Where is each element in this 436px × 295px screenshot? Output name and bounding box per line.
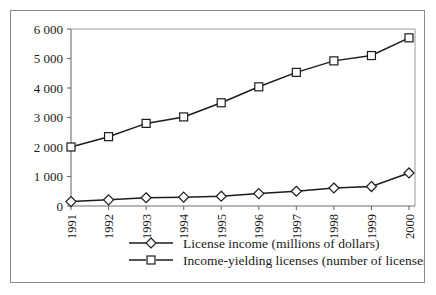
series-line-2 (71, 38, 409, 147)
data-point-s2-1992 (105, 133, 113, 141)
data-point-s1-1994 (179, 192, 189, 202)
data-point-s2-1997 (292, 68, 300, 76)
data-point-s1-1996 (254, 189, 264, 199)
x-tick-label: 1991 (65, 214, 79, 239)
data-point-s2-1991 (67, 143, 75, 151)
square-marker-icon (147, 256, 155, 264)
y-tick-label: 1 000 (34, 169, 63, 184)
data-point-s2-1996 (255, 83, 263, 91)
data-point-s2-1998 (330, 57, 338, 65)
x-tick-label: 1993 (140, 214, 154, 239)
y-tick-label: 2 000 (34, 140, 63, 155)
data-point-s1-1992 (104, 195, 114, 205)
plot-frame (71, 29, 415, 206)
data-point-s2-1999 (367, 52, 375, 60)
y-tick-label: 5 000 (34, 51, 63, 66)
data-point-s1-1991 (66, 197, 76, 207)
line-chart: 01 0002 0003 0004 0005 0006 000199119921… (11, 11, 424, 282)
data-point-s1-1999 (366, 182, 376, 192)
y-tick-label: 4 000 (34, 81, 63, 96)
legend-label-2: Income-yielding licenses (number of lice… (183, 253, 424, 268)
data-point-s2-2000 (405, 34, 413, 42)
data-point-s1-1998 (329, 183, 339, 193)
data-point-s1-1997 (291, 186, 301, 196)
data-point-s1-1995 (216, 191, 226, 201)
x-tick-label: 1992 (102, 214, 116, 239)
data-point-s2-1995 (217, 99, 225, 107)
data-point-s1-1993 (141, 193, 151, 203)
y-tick-label: 6 000 (34, 22, 63, 37)
x-tick-label: 2000 (403, 214, 417, 239)
data-point-s2-1994 (180, 113, 188, 121)
data-point-s1-2000 (404, 168, 414, 178)
data-point-s2-1993 (142, 119, 150, 127)
chart-figure: 01 0002 0003 0004 0005 0006 000199119921… (10, 10, 425, 283)
series-line-1 (71, 173, 409, 202)
y-tick-label: 3 000 (34, 110, 63, 125)
legend-label-1: License income (millions of dollars) (183, 236, 379, 251)
y-tick-label: 0 (57, 199, 64, 214)
